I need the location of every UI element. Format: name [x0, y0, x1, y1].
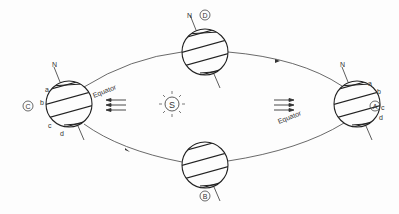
equator-label-c: Equator: [92, 83, 118, 100]
svg-text:B: B: [203, 193, 208, 200]
north-label-a: N: [340, 61, 345, 68]
lat-b-c: b: [40, 99, 44, 106]
earth-orbit-diagram: S N N N Equator Equator a b c d a b c d …: [0, 0, 399, 214]
lat-c-c: c: [48, 122, 52, 129]
lat-d-c: d: [60, 130, 64, 137]
globe-d: [176, 15, 234, 88]
position-label-b: B: [200, 191, 210, 201]
north-label-d: N: [187, 12, 192, 19]
lat-b-a: b: [377, 88, 381, 95]
sunlight-arrows-left: [106, 99, 126, 112]
position-label-c: C: [23, 101, 33, 111]
lat-a-c: a: [45, 86, 49, 93]
svg-text:C: C: [25, 103, 30, 110]
globe-b: [176, 138, 234, 201]
sunlight-arrows-right: [274, 99, 294, 112]
orbit-path: [84, 52, 344, 162]
lat-a-a: a: [368, 80, 372, 87]
svg-text:D: D: [202, 12, 207, 19]
lat-c-a: c: [381, 104, 385, 111]
globe-c: [40, 67, 98, 140]
sun-label: S: [169, 100, 175, 110]
svg-text:A: A: [373, 103, 378, 110]
lat-d-a: d: [379, 114, 383, 121]
position-label-d: D: [200, 10, 210, 20]
north-label-c: N: [52, 61, 57, 68]
